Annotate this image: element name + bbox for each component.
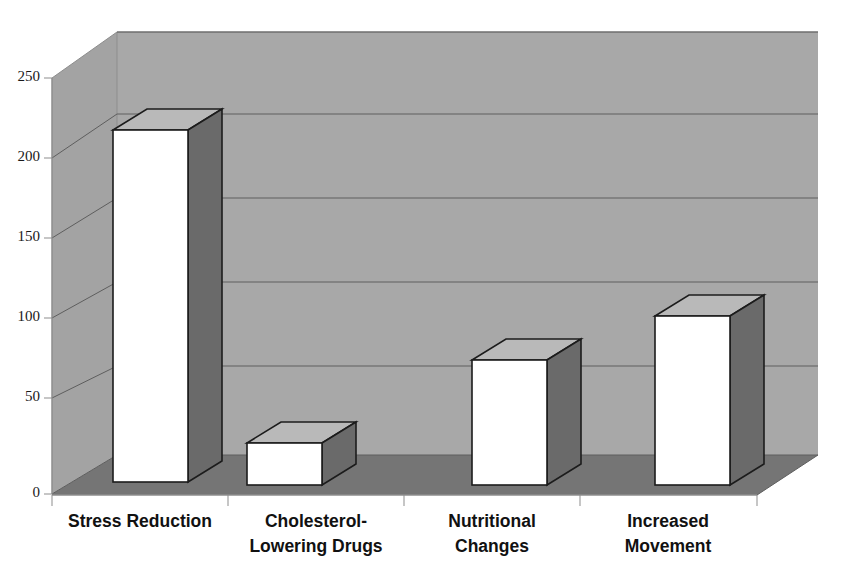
category-label-cholesterol-lowering-drugs-line1: Cholesterol-: [265, 511, 367, 531]
ytick-label-50: 50: [25, 388, 40, 404]
left-wall: [52, 32, 117, 494]
chart-canvas: 250 200 150 100 50 0: [0, 0, 843, 581]
ytick-label-200: 200: [18, 148, 41, 164]
category-label-nutritional-changes-line1: Nutritional: [448, 511, 536, 531]
x-category-labels: Stress Reduction Cholesterol- Lowering D…: [68, 511, 711, 556]
bar-side-face: [188, 109, 222, 482]
bar-nutritional-changes[interactable]: [472, 339, 581, 485]
bar-side-face: [730, 295, 764, 485]
category-label-cholesterol-lowering-drugs-line2: Lowering Drugs: [249, 536, 382, 556]
bar-stress-reduction[interactable]: [113, 109, 222, 482]
x-axis: [52, 495, 757, 506]
bar-front-face: [472, 360, 547, 485]
ytick-label-100: 100: [18, 308, 41, 324]
y-axis: 250 200 150 100 50 0: [18, 68, 53, 500]
bar-increased-movement[interactable]: [655, 295, 764, 485]
category-label-increased-movement-line2: Movement: [625, 536, 712, 556]
ytick-label-0: 0: [33, 484, 41, 500]
bar-side-face: [547, 339, 581, 485]
bar-front-face: [113, 130, 188, 482]
category-label-nutritional-changes-line2: Changes: [455, 536, 529, 556]
bar-front-face: [247, 443, 322, 485]
bar-chart-figure: 250 200 150 100 50 0: [0, 0, 843, 581]
category-label-increased-movement-line1: Increased: [627, 511, 709, 531]
ytick-label-250: 250: [18, 68, 41, 84]
ytick-label-150: 150: [18, 228, 41, 244]
bar-front-face: [655, 316, 730, 485]
category-label-stress-reduction: Stress Reduction: [68, 511, 212, 531]
